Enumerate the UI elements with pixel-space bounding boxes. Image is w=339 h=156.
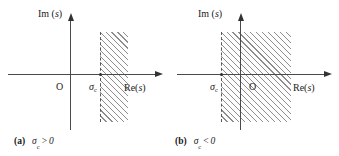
panel-b-roc-region bbox=[221, 32, 291, 122]
panel-b-sigma-label: σc bbox=[210, 82, 218, 92]
panel-a-plot: Im (s) Re(s) O σc bbox=[0, 0, 169, 132]
panel-b-real-axis bbox=[177, 74, 326, 75]
panel-a-imag-axis-arrow bbox=[68, 13, 74, 21]
panel-a-origin-label: O bbox=[56, 82, 63, 92]
panel-a-sigma-point bbox=[99, 73, 102, 76]
panel-a-real-axis-arrow bbox=[155, 71, 163, 77]
panel-b-caption-tag: (b) bbox=[175, 136, 187, 146]
panel-a-real-axis bbox=[8, 74, 157, 75]
panel-a-sigma-label: σc bbox=[89, 82, 97, 92]
panel-b-imag-axis-label: Im (s) bbox=[198, 9, 222, 19]
panel-a-caption-expression: σc>0 bbox=[32, 136, 54, 146]
panel-b-imag-axis-arrow bbox=[238, 13, 244, 21]
panel-b: Im (s) Re(s) O σc (b)σc<0 bbox=[169, 0, 338, 156]
panel-b-real-axis-arrow bbox=[324, 71, 332, 77]
panel-b-sigma-boundary bbox=[221, 32, 222, 122]
panel-a-real-axis-label: Re(s) bbox=[124, 83, 146, 93]
panel-a-sigma-boundary bbox=[100, 32, 101, 122]
panel-b-real-axis-label: Re(s) bbox=[293, 83, 315, 93]
panel-a-imag-axis bbox=[70, 20, 71, 130]
figure-s-plane-roc: Im (s) Re(s) O σc (a)σc>0 Im (s) bbox=[0, 0, 339, 156]
panel-b-origin-label: O bbox=[249, 82, 256, 92]
panel-b-plot: Im (s) Re(s) O σc bbox=[169, 0, 338, 132]
panel-b-sigma-point bbox=[220, 73, 223, 76]
panel-a-caption: (a)σc>0 bbox=[14, 136, 54, 148]
panel-b-caption-expression: σc<0 bbox=[194, 136, 216, 146]
panel-a-roc-region bbox=[100, 32, 128, 122]
panel-a: Im (s) Re(s) O σc (a)σc>0 bbox=[0, 0, 169, 156]
panel-a-caption-tag: (a) bbox=[14, 136, 25, 146]
panel-b-imag-axis bbox=[240, 20, 241, 130]
panel-a-imag-axis-label: Im (s) bbox=[38, 9, 62, 19]
panel-b-caption: (b)σc<0 bbox=[175, 136, 215, 148]
